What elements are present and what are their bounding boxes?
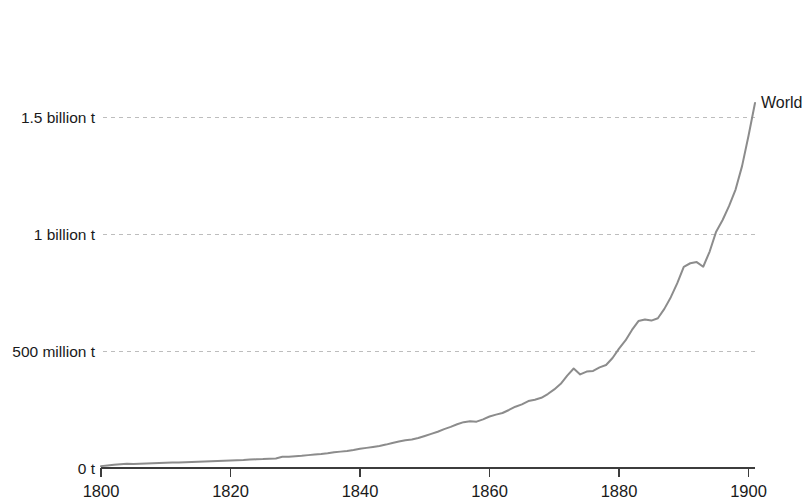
x-axis-tick-label: 1840 (342, 482, 379, 500)
chart-container: 0 t500 million t1 billion t1.5 billion t… (0, 0, 807, 504)
x-axis-tick-label: 1880 (601, 482, 638, 500)
x-axis-tick-label: 1900 (730, 482, 767, 500)
y-axis-tick-label: 1.5 billion t (21, 109, 96, 126)
data-series-world (101, 103, 755, 466)
line-chart: 0 t500 million t1 billion t1.5 billion t… (0, 0, 807, 504)
x-axis-tick-label: 1820 (212, 482, 249, 500)
y-axis-tick-label: 500 million t (12, 343, 95, 360)
y-axis-tick-label: 0 t (78, 460, 96, 477)
y-axis-tick-label: 1 billion t (34, 226, 96, 243)
series-line-world (101, 103, 755, 466)
x-axis-tick-label: 1800 (83, 482, 120, 500)
y-axis-tick-labels: 0 t500 million t1 billion t1.5 billion t (12, 109, 95, 477)
x-axis (101, 468, 755, 477)
x-axis-tick-labels: 180018201840186018801900 (83, 482, 767, 500)
world-series-label: World (761, 94, 803, 111)
series-end-label: World (761, 94, 803, 111)
x-axis-tick-label: 1860 (471, 482, 508, 500)
